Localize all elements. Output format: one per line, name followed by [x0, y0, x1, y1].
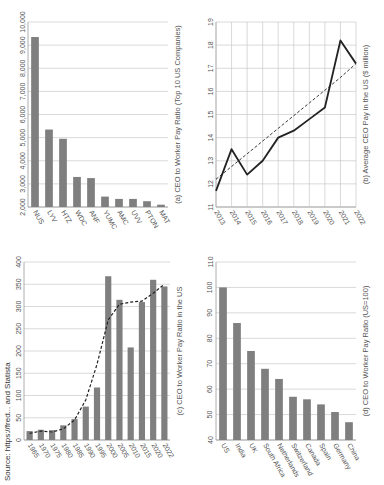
category-label: PTON	[144, 209, 160, 229]
category-label: India	[234, 442, 248, 459]
source-footnote: Source: https://fred... and Statista	[3, 362, 12, 481]
y-tick-label: 7,000	[19, 83, 26, 101]
y-tick-label: 350	[15, 278, 22, 290]
category-label: LYV	[46, 209, 59, 224]
category-label: 2017	[275, 209, 289, 226]
category-label: 2022	[353, 209, 367, 226]
y-tick-label: 90	[207, 309, 214, 317]
bar	[303, 399, 311, 440]
plot-area: 0501001502002503003504001965197019751980…	[15, 256, 176, 459]
category-label: 2013	[213, 209, 227, 226]
bar	[128, 347, 134, 440]
category-label: UK	[248, 442, 259, 454]
bar	[261, 369, 269, 440]
bar	[129, 199, 137, 207]
y-tick-label: 40	[207, 436, 214, 444]
bar	[317, 404, 325, 440]
bar	[289, 397, 297, 440]
y-tick-label: 6,000	[19, 106, 26, 124]
bar	[101, 197, 109, 207]
chart-title: (c) CEO to Worker Pay Ratio in the US	[175, 286, 184, 415]
y-tick-label: 150	[15, 367, 22, 379]
bar	[115, 199, 123, 207]
y-tick-label: 8,000	[19, 59, 26, 77]
chart-panel-d: 405060708090100110USIndiaUKSouth AfricaN…	[192, 242, 384, 485]
chart-panel-a: 2,0003,0004,0005,0006,0007,0008,0009,000…	[0, 0, 192, 242]
y-tick-label: 100	[15, 390, 22, 402]
y-tick-label: 110	[207, 256, 214, 267]
y-tick-label: 2,000	[19, 198, 26, 216]
bar	[157, 205, 165, 207]
category-label: 2015	[244, 209, 258, 226]
plot-area: 2,0003,0004,0005,0006,0007,0008,0009,000…	[19, 11, 172, 230]
plot-area: 405060708090100110USIndiaUKSouth AfricaN…	[207, 256, 362, 478]
plot-area: 1112131415161718192013201420152016201720…	[207, 18, 368, 226]
category-label: 2022	[162, 442, 176, 459]
bar	[83, 407, 89, 440]
y-tick-label: 80	[207, 334, 214, 342]
y-tick-label: 70	[207, 360, 214, 368]
y-tick-label: 16	[207, 87, 214, 95]
y-tick-label: 9,000	[19, 36, 26, 54]
y-tick-label: 0	[15, 438, 22, 442]
bar	[331, 412, 339, 440]
bar	[105, 276, 111, 440]
category-label: 2018	[291, 209, 305, 226]
y-tick-label: 12	[207, 180, 214, 188]
bar	[73, 177, 81, 207]
bar	[87, 178, 95, 207]
bar	[139, 302, 145, 440]
bar-chart-d: 405060708090100110USIndiaUKSouth AfricaN…	[192, 242, 384, 485]
category-label: 2014	[229, 209, 243, 226]
category-label: MAT	[158, 209, 172, 225]
y-tick-label: 15	[207, 111, 214, 119]
bar	[59, 139, 67, 207]
y-tick-label: 3,000	[19, 175, 26, 193]
bar	[161, 286, 167, 440]
category-label: 2019	[306, 209, 320, 226]
y-tick-label: 5,000	[19, 129, 26, 147]
bar	[45, 130, 53, 207]
bar	[275, 379, 283, 440]
y-tick-label: 400	[15, 256, 22, 268]
chart-panel-b: 1112131415161718192013201420152016201720…	[192, 0, 384, 242]
category-label: AMC	[116, 209, 130, 226]
y-tick-label: 10,000	[19, 11, 26, 33]
category-label: 2016	[260, 209, 274, 226]
category-label: NUS	[32, 209, 46, 226]
category-label: UVV	[130, 209, 143, 225]
y-tick-label: 4,000	[19, 152, 26, 170]
category-label: US	[220, 442, 231, 454]
y-tick-label: 17	[207, 64, 214, 72]
line-chart-b: 1112131415161718192013201420152016201720…	[192, 0, 384, 242]
bar-chart-c: 0501001502002503003504001965197019751980…	[0, 242, 192, 485]
y-tick-label: 250	[15, 323, 22, 335]
bar	[247, 351, 255, 440]
y-tick-label: 13	[207, 157, 214, 165]
bar-chart-a: 2,0003,0004,0005,0006,0007,0008,0009,000…	[0, 0, 192, 242]
y-tick-label: 14	[207, 134, 214, 142]
bar	[31, 37, 39, 207]
category-label: WDC	[74, 209, 88, 227]
chart-panel-c: 0501001502002503003504001965197019751980…	[0, 242, 192, 485]
bar	[150, 280, 156, 440]
y-tick-label: 19	[207, 18, 214, 26]
bar	[143, 201, 151, 207]
data-line	[216, 41, 356, 191]
bar	[233, 323, 241, 440]
y-tick-label: 50	[15, 414, 22, 422]
category-label: HTZ	[60, 209, 73, 225]
y-tick-label: 18	[207, 41, 214, 49]
category-label: ANF	[88, 209, 101, 225]
bar	[94, 387, 100, 440]
y-tick-label: 300	[15, 301, 22, 313]
category-label: 2020	[322, 209, 336, 226]
bar	[116, 300, 122, 440]
y-tick-label: 60	[207, 385, 214, 393]
y-tick-label: 50	[207, 411, 214, 419]
trend-line	[216, 64, 356, 180]
category-label: 2021	[338, 209, 352, 226]
chart-title: (d) CEO to Worker Pay Ratio (US=100)	[361, 285, 370, 416]
y-tick-label: 11	[207, 203, 214, 210]
y-tick-label: 200	[15, 345, 22, 357]
